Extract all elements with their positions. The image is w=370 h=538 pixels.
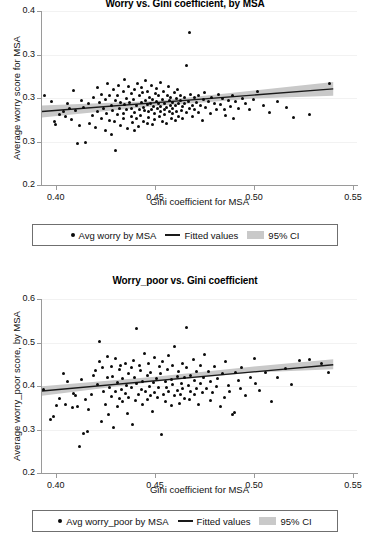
scatter-point [156, 396, 159, 399]
x-tick-label: 0.40 [38, 480, 74, 490]
y-tick-mark [37, 343, 41, 344]
y-tick-mark [37, 299, 41, 300]
x-tick-mark [155, 474, 156, 478]
legend-item-points[interactable]: Avg worry_poor by MSA [58, 516, 168, 527]
scatter-point [160, 433, 163, 436]
scatter-point [227, 384, 230, 387]
scatter-point [141, 380, 144, 383]
scatter-point [143, 352, 146, 355]
scatter-point [187, 384, 190, 387]
scatter-point [167, 354, 170, 357]
y-tick-mark [37, 430, 41, 431]
scatter-point [180, 382, 183, 385]
scatter-point [116, 405, 119, 408]
scatter-point [144, 390, 147, 393]
scatter-point [188, 398, 191, 401]
fitted-line [42, 365, 333, 391]
scatter-point [102, 390, 105, 393]
scatter-point [239, 387, 242, 390]
scatter-point [176, 375, 179, 378]
chart-legend: Avg worry_poor by MSAFitted values95% CI [32, 510, 338, 532]
y-tick-label: 0.3 [22, 424, 35, 434]
legend-item-fitted[interactable]: Fitted values [178, 516, 251, 527]
scatter-point [100, 420, 103, 423]
legend-points-label: Avg worry_poor by MSA [66, 516, 168, 527]
scatter-point [290, 383, 293, 386]
x-tick-mark [353, 474, 354, 478]
y-tick-label: 0.6 [22, 293, 35, 303]
chart-panel-2: Worry_poor vs. Gini coefficientAverage w… [0, 0, 370, 269]
scatter-point [96, 383, 99, 386]
scatter-point [121, 400, 124, 403]
scatter-point [192, 358, 195, 361]
scatter-point [90, 393, 93, 396]
scatter-point [134, 399, 137, 402]
scatter-point [178, 402, 181, 405]
scatter-point [253, 357, 256, 360]
y-axis-label: Average worry_poor score, by MSA [11, 299, 22, 473]
chart-title: Worry_poor vs. Gini coefficient [0, 275, 370, 286]
scatter-point [126, 412, 129, 415]
y-tick-label: 0.2 [22, 467, 35, 477]
scatter-point [106, 376, 109, 379]
scatter-point [137, 393, 140, 396]
y-tick-mark [37, 473, 41, 474]
scatter-point [118, 397, 121, 400]
scatter-point [124, 392, 127, 395]
scatter-point [211, 391, 214, 394]
scatter-point [76, 405, 79, 408]
scatter-point [49, 418, 52, 421]
scatter-point [140, 388, 143, 391]
scatter-point [120, 388, 123, 391]
x-tick-mark [56, 474, 57, 478]
scatter-point [110, 395, 113, 398]
scatter-point [237, 379, 240, 382]
scatter-point [98, 360, 101, 363]
x-axis-label: Gini coefficient for MSA [42, 484, 357, 495]
scatter-point [64, 403, 67, 406]
legend-band-label: 95% CI [280, 516, 311, 527]
y-tick-label: 0.5 [22, 337, 35, 347]
scatter-point [264, 371, 267, 374]
scatter-point [171, 383, 174, 386]
scatter-point [71, 406, 74, 409]
scatter-point [195, 370, 198, 373]
scatter-point [162, 393, 165, 396]
scatter-point [176, 389, 179, 392]
y-tick-label: 0.4 [22, 380, 35, 390]
legend-line-icon [178, 520, 193, 522]
scatter-point [84, 398, 87, 401]
scatter-point [92, 374, 95, 377]
scatter-point [170, 378, 173, 381]
plot-area [42, 299, 357, 473]
scatter-point [108, 386, 111, 389]
legend-point-icon [58, 519, 62, 523]
scatter-point [42, 388, 45, 391]
legend-item-ci[interactable]: 95% CI [259, 516, 311, 527]
scatter-point [164, 400, 167, 403]
scatter-point [249, 376, 252, 379]
scatter-point [193, 393, 196, 396]
legend-line-label: Fitted values [197, 516, 251, 527]
scatter-point [170, 404, 173, 407]
scatter-point [195, 387, 198, 390]
scatter-point [284, 367, 287, 370]
legend-band-icon [259, 517, 276, 525]
scatter-point [308, 358, 311, 361]
scatter-point [146, 374, 149, 377]
y-axis-line [41, 299, 42, 474]
scatter-point [197, 403, 200, 406]
scatter-point [189, 390, 192, 393]
fit-overlay [42, 299, 357, 473]
x-tick-label: 0.50 [236, 480, 272, 490]
scatter-point [138, 364, 141, 367]
x-tick-mark [254, 474, 255, 478]
x-axis-line [41, 473, 358, 474]
scatter-point [177, 370, 180, 373]
scatter-point [173, 394, 176, 397]
x-tick-label: 0.45 [137, 480, 173, 490]
scatter-point [219, 405, 222, 408]
scatter-point [104, 403, 107, 406]
scatter-point [55, 404, 58, 407]
x-tick-label: 0.55 [335, 480, 370, 490]
